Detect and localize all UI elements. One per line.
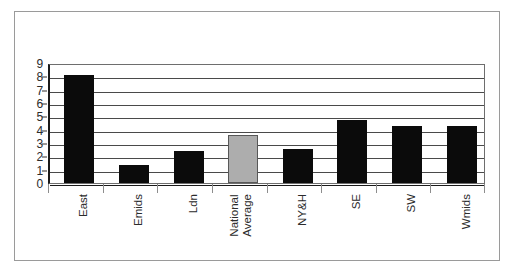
x-label-line: SW (405, 194, 417, 213)
x-axis-label-emids: Emids (132, 194, 145, 226)
bar-slot (52, 65, 107, 183)
bar-slot (434, 65, 489, 183)
y-tick-label-0: 0 (37, 178, 43, 190)
x-axis: EastEmidsLdnNationalAverageNY&HSESWWmids (50, 194, 487, 262)
y-tick-label-9: 9 (37, 58, 43, 70)
x-axis-tick (376, 184, 377, 193)
bar-ldn[interactable] (174, 151, 204, 183)
y-tick-mark-8 (42, 77, 47, 78)
bar-national-average[interactable] (228, 135, 258, 183)
x-axis-label-wmids: Wmids (460, 194, 473, 229)
x-axis-separators (48, 184, 485, 194)
x-axis-tick (267, 184, 268, 193)
x-axis-tick (321, 184, 322, 193)
x-axis-tick (484, 184, 485, 193)
bar-slot (325, 65, 380, 183)
bar-se[interactable] (337, 120, 367, 183)
x-axis-tick (103, 184, 104, 193)
x-label-slot: SW (378, 194, 433, 262)
x-axis-label-ny-h: NY&H (296, 194, 309, 226)
x-label-line: National (228, 194, 240, 236)
x-label-line: Ldn (187, 194, 199, 213)
y-tick-mark-1 (42, 170, 47, 171)
bar-chart: 0123456789 EastEmidsLdnNationalAverageNY… (15, 12, 501, 262)
x-label-slot: NY&H (269, 194, 324, 262)
x-axis-tick (430, 184, 431, 193)
x-axis-label-se: SE (350, 194, 363, 209)
x-label-line: NY&H (296, 194, 308, 226)
y-tick-mark-7 (42, 90, 47, 91)
x-label-slot: SE (323, 194, 378, 262)
x-axis-tick (157, 184, 158, 193)
x-axis-tick (212, 184, 213, 193)
bar-emids[interactable] (119, 165, 149, 183)
y-tick-mark-3 (42, 144, 47, 145)
bar-slot (380, 65, 435, 183)
y-axis: 0123456789 (15, 64, 46, 185)
x-label-line: Emids (132, 194, 144, 226)
x-label-line: Wmids (460, 194, 472, 229)
y-tick-mark-4 (42, 130, 47, 131)
x-axis-label-east: East (77, 194, 90, 217)
y-tick-mark-2 (42, 157, 47, 158)
bar-wmids[interactable] (447, 126, 477, 183)
x-label-line: SE (350, 194, 362, 209)
x-label-line: East (77, 194, 89, 217)
bar-slot (216, 65, 271, 183)
x-axis-label-national-average: NationalAverage (228, 194, 254, 237)
bar-east[interactable] (64, 75, 94, 183)
y-tick-mark-6 (42, 104, 47, 105)
bars-layer (52, 65, 484, 183)
x-axis-label-ldn: Ldn (187, 194, 200, 213)
bar-slot (107, 65, 162, 183)
x-axis-tick (48, 184, 49, 193)
x-label-slot: Emids (105, 194, 160, 262)
bar-sw[interactable] (392, 126, 422, 183)
x-label-slot: Wmids (432, 194, 487, 262)
y-tick-mark-5 (42, 117, 47, 118)
plot-area (48, 64, 485, 184)
x-label-line: Average (241, 194, 254, 237)
bar-slot (271, 65, 326, 183)
bar-slot (161, 65, 216, 183)
x-axis-label-sw: SW (405, 194, 418, 213)
bar-ny-h[interactable] (283, 149, 313, 183)
x-label-slot: Ldn (159, 194, 214, 262)
x-label-slot: NationalAverage (214, 194, 269, 262)
figure-frame: 0123456789 EastEmidsLdnNationalAverageNY… (14, 11, 500, 261)
x-label-slot: East (50, 194, 105, 262)
